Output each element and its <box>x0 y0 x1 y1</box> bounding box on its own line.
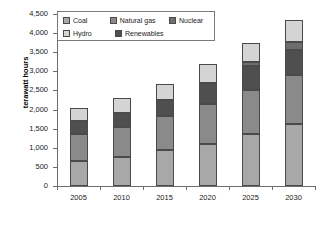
legend-swatch-nuclear-icon <box>169 17 176 24</box>
bar-segment-coal <box>285 124 303 186</box>
legend-label-nuclear: Nuclear <box>179 17 203 24</box>
bar-segment-coal <box>156 150 174 186</box>
bar-segment-natural-gas <box>242 90 260 134</box>
bar-segment-renewables <box>70 121 88 134</box>
bar-segment-natural-gas <box>156 116 174 150</box>
y-tick-label: 2,000 <box>29 106 48 114</box>
legend-item-nuclear: Nuclear <box>169 14 214 27</box>
bar-segment-renewables <box>113 113 131 128</box>
bar-segment-renewables <box>242 66 260 90</box>
bar-segment-renewables <box>285 50 303 75</box>
bar-segment-nuclear <box>285 42 303 51</box>
bar-segment-natural-gas <box>70 134 88 162</box>
bar-segment-coal <box>242 134 260 186</box>
stacked-bar-chart: terawatt hours 05001,0001,5002,0002,5003… <box>0 0 327 230</box>
bar-2030 <box>285 14 303 186</box>
bar-segment-nuclear <box>242 62 260 66</box>
y-tick-label: 2,500 <box>29 86 48 94</box>
y-tick-label: 500 <box>35 163 48 171</box>
y-tick-label: 1,500 <box>29 125 48 133</box>
bar-segment-coal <box>70 161 88 186</box>
x-tick <box>143 186 144 190</box>
x-tick <box>315 186 316 190</box>
legend-row-bottom: Hydro Renewables <box>58 27 214 40</box>
x-tick-label: 2020 <box>188 194 228 202</box>
legend-item-hydro: Hydro <box>63 27 115 40</box>
chart-legend: Coal Natural gas Nuclear Hydro Renewable… <box>57 11 215 41</box>
bar-segment-renewables <box>156 100 174 117</box>
x-tick <box>57 186 58 190</box>
legend-label-renewables: Renewables <box>125 30 164 37</box>
x-tick <box>100 186 101 190</box>
y-tick-label: 1,000 <box>29 144 48 152</box>
bar-segment-hydro <box>70 108 88 121</box>
legend-swatch-coal-icon <box>63 17 70 24</box>
bar-segment-coal <box>113 157 131 186</box>
legend-item-renewables: Renewables <box>115 27 195 40</box>
legend-swatch-natural-gas-icon <box>110 17 117 24</box>
bar-segment-hydro <box>242 43 260 62</box>
x-tick-label: 2030 <box>274 194 314 202</box>
legend-row-top: Coal Natural gas Nuclear <box>58 14 214 27</box>
x-tick <box>272 186 273 190</box>
legend-swatch-hydro-icon <box>63 30 70 37</box>
legend-label-coal: Coal <box>73 17 87 24</box>
legend-item-natural-gas: Natural gas <box>110 14 169 27</box>
legend-item-coal: Coal <box>63 14 110 27</box>
y-tick-label: 0 <box>44 182 48 190</box>
bar-segment-hydro <box>113 98 131 112</box>
bar-segment-coal <box>199 144 217 186</box>
y-tick-label: 4,500 <box>29 10 48 18</box>
bar-segment-renewables <box>199 83 217 104</box>
y-tick-label: 3,000 <box>29 67 48 75</box>
x-tick-label: 2025 <box>231 194 271 202</box>
y-tick-label: 4,000 <box>29 29 48 37</box>
x-tick-label: 2015 <box>145 194 185 202</box>
bar-segment-natural-gas <box>199 104 217 144</box>
bar-segment-natural-gas <box>285 75 303 124</box>
y-tick-label: 3,500 <box>29 48 48 56</box>
bar-segment-hydro <box>285 20 303 42</box>
x-tick-label: 2005 <box>59 194 99 202</box>
legend-swatch-renewables-icon <box>115 30 122 37</box>
legend-label-hydro: Hydro <box>73 30 92 37</box>
bar-2025 <box>242 14 260 186</box>
bar-segment-natural-gas <box>113 127 131 157</box>
bar-segment-hydro <box>199 64 217 83</box>
x-tick-label: 2010 <box>102 194 142 202</box>
bar-segment-hydro <box>156 84 174 100</box>
x-tick <box>229 186 230 190</box>
y-axis-title: terawatt hours <box>21 28 30 138</box>
legend-label-natural-gas: Natural gas <box>120 17 156 24</box>
x-tick <box>186 186 187 190</box>
